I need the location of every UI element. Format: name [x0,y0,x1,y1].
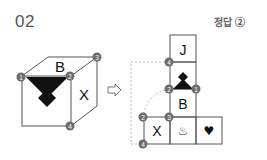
net-letter-j: J [180,42,187,58]
cube-vertex-3: 3 [93,53,102,62]
svg-text:2: 2 [141,114,145,121]
up-triangle-icon [173,72,193,89]
svg-text:2: 2 [167,86,171,93]
hot-spring-icon: ♨ [178,124,189,138]
net-letter-x: X [152,123,162,139]
fold-guides [131,62,169,144]
net-vertex-2-mid: 2 [165,85,174,94]
svg-text:4: 4 [141,141,145,148]
svg-text:2: 2 [68,73,72,80]
svg-text:3: 3 [167,114,171,121]
right-arrow-icon [108,84,121,96]
heart-icon: ♥ [204,124,215,138]
svg-text:1: 1 [194,86,198,93]
down-triangle-icon [26,77,68,107]
cube-right-letter: X [79,86,89,103]
net-vertex-4-bottom: 4 [139,140,148,149]
net-vertex-2-left: 2 [139,113,148,122]
net-vertex-4-top: 4 [165,58,174,67]
svg-text:4: 4 [68,123,72,130]
cube-vertex-1: 1 [17,73,26,82]
diagram-canvas: B X 1 2 3 4 J B X ♨ ♥ [0,0,267,160]
net-vertex-3: 3 [165,113,174,122]
svg-text:4: 4 [167,59,171,66]
cube-top-letter: B [55,58,65,75]
net-vertex-1: 1 [192,85,201,94]
net-letter-b: B [178,96,187,112]
cube-vertex-4: 4 [66,122,75,131]
cube-vertex-2: 2 [66,72,75,81]
svg-text:3: 3 [95,54,99,61]
svg-text:1: 1 [19,74,23,81]
